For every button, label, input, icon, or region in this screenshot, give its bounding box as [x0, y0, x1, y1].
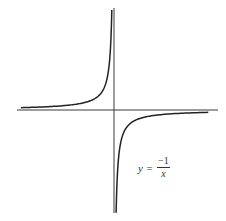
function-label-fraction: −1 x	[157, 156, 170, 179]
fraction-numerator: −1	[157, 156, 170, 168]
curve-branch-left	[21, 10, 112, 108]
fraction-denominator: x	[161, 168, 165, 179]
function-label-lhs: y =	[138, 162, 153, 174]
function-plot	[0, 0, 226, 221]
function-label: y = −1 x	[138, 156, 170, 179]
